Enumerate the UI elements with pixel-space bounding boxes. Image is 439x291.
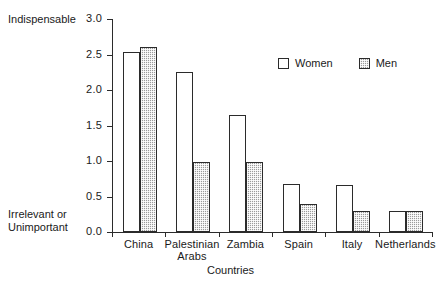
x-category-label-line1: Netherlands — [375, 238, 435, 250]
bar-women-spain — [283, 184, 300, 232]
x-category-label: China — [124, 238, 153, 250]
bar-men-spain — [300, 204, 317, 232]
y-axis-bottom-label: Irrelevant or Unimportant — [8, 208, 68, 234]
bar-men-italy — [353, 211, 370, 232]
x-category-label: Netherlands — [375, 238, 435, 250]
bar-men-netherlands — [406, 211, 423, 232]
legend-label-women: Women — [295, 57, 333, 70]
y-tick-mark — [107, 55, 112, 56]
x-category-label-line1: China — [124, 238, 153, 250]
legend-swatch-men — [359, 58, 370, 69]
x-tick-mark — [325, 232, 326, 237]
y-axis-top-label: Indispensable — [8, 13, 76, 26]
y-axis-bottom-label-line1: Irrelevant or — [8, 208, 68, 221]
x-tick-mark — [272, 232, 273, 237]
x-tick-mark — [112, 232, 113, 237]
y-tick-mark — [107, 161, 112, 162]
y-tick-mark — [107, 126, 112, 127]
legend-item-men: Men — [359, 57, 397, 70]
bar-women-netherlands — [389, 211, 406, 232]
legend-item-women: Women — [278, 57, 333, 70]
y-tick-label: 2.5 — [86, 48, 102, 61]
y-tick-label: 0.5 — [86, 190, 102, 203]
bar-women-china — [123, 52, 140, 232]
bar-chart: 0.00.51.01.52.02.53.0 ChinaPalestinianAr… — [0, 0, 439, 291]
x-category-label-line2: Arabs — [165, 250, 220, 262]
y-tick-label: 2.0 — [86, 83, 102, 96]
bar-men-china — [140, 47, 157, 232]
y-tick-mark — [107, 19, 112, 20]
x-category-label: Spain — [284, 238, 313, 250]
bar-women-palestinian-arabs — [176, 72, 193, 232]
y-tick-label: 1.5 — [86, 119, 102, 132]
x-category-label-line1: Palestinian — [165, 238, 220, 250]
y-tick-label: 0.0 — [86, 225, 102, 238]
x-axis-title-text: Countries — [207, 264, 254, 276]
y-tick-label: 1.0 — [86, 154, 102, 167]
x-category-label: PalestinianArabs — [165, 238, 220, 262]
bar-men-zambia — [246, 162, 263, 232]
x-tick-mark — [219, 232, 220, 237]
x-category-label: Italy — [342, 238, 363, 250]
x-tick-mark — [432, 232, 433, 237]
y-axis-bottom-label-line2: Unimportant — [8, 221, 68, 234]
x-axis-title: Countries — [0, 264, 439, 277]
x-category-label: Zambia — [227, 238, 264, 250]
y-tick-mark — [107, 197, 112, 198]
x-category-label-line1: Spain — [284, 238, 313, 250]
x-category-label-line1: Zambia — [227, 238, 264, 250]
y-tick-mark — [107, 90, 112, 91]
y-tick-label: 3.0 — [86, 12, 102, 25]
legend-swatch-women — [278, 58, 289, 69]
legend-label-men: Men — [376, 57, 397, 70]
x-tick-mark — [165, 232, 166, 237]
x-category-label-line1: Italy — [342, 238, 363, 250]
x-tick-mark — [379, 232, 380, 237]
bar-women-zambia — [229, 115, 246, 232]
bar-women-italy — [336, 185, 353, 232]
bar-men-palestinian-arabs — [193, 162, 210, 232]
plot-area — [113, 19, 432, 232]
chart-legend: WomenMen — [278, 57, 397, 70]
